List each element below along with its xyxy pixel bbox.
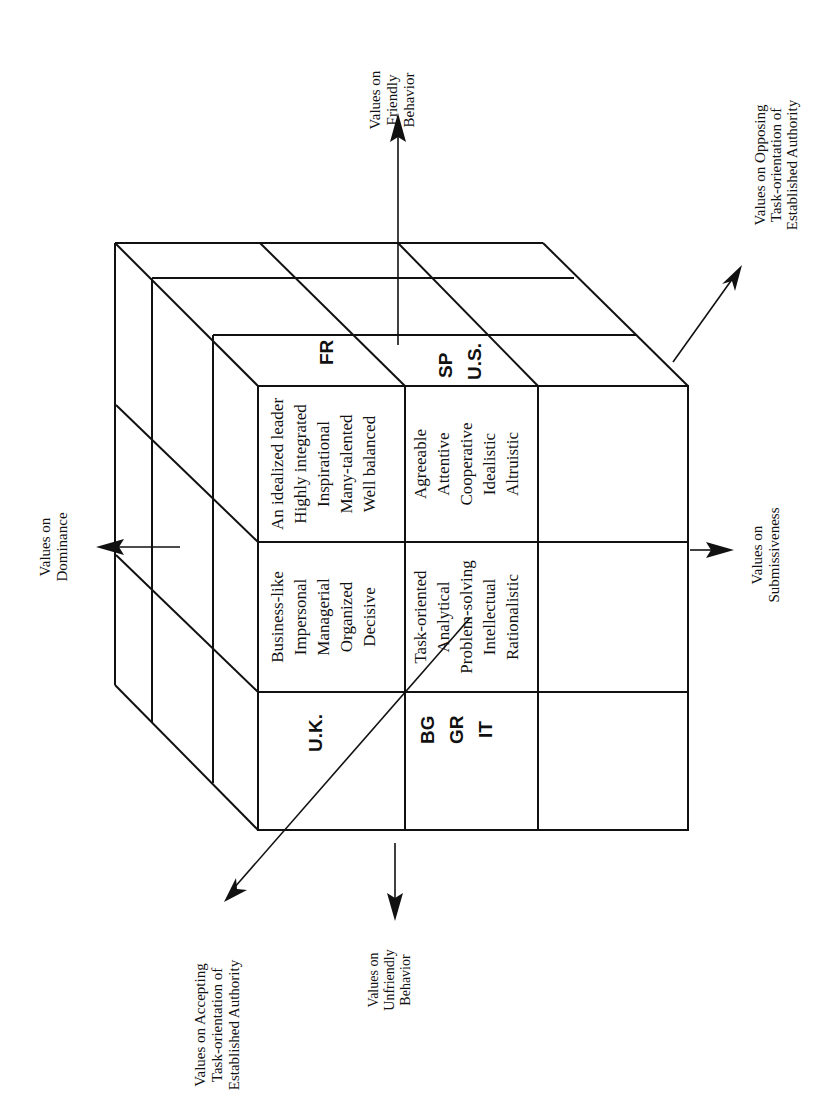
label-line: Established Authority <box>784 99 800 230</box>
label-line: Friendly <box>384 74 400 125</box>
label-line: Values on Accepting <box>192 963 208 1087</box>
country-code: SP <box>435 352 456 378</box>
cube-top-face <box>115 243 688 386</box>
arrow-up-right-icon <box>722 265 742 291</box>
label-submissiveness: Values on Submissiveness <box>749 507 782 602</box>
arrow-down-left-icon <box>224 878 247 902</box>
cell-trait: Managerial <box>314 578 333 656</box>
cube-diagram: Values on Friendly Behavior Values on Op… <box>0 0 824 1120</box>
cell-dominant-friendly: An idealized leader Highly integrated In… <box>268 398 379 530</box>
cell-trait: Intellectual <box>480 578 499 655</box>
axis-accepting <box>224 618 470 902</box>
cell-dominant-neutral: Business-like Impersonal Managerial Orga… <box>268 571 379 663</box>
label-line: Dominance <box>54 512 70 581</box>
label-unfriendly: Values on Unfriendly Behavior <box>366 949 413 1010</box>
country-code: IT <box>475 721 496 738</box>
label-opposing: Values on Opposing Task-orientation of E… <box>752 99 800 230</box>
cell-trait: Analytical <box>434 581 453 652</box>
label-line: Submissiveness <box>766 507 782 602</box>
label-line: Values on <box>749 525 765 584</box>
cell-trait: Well balanced <box>360 415 379 512</box>
country-gr: GR <box>446 715 467 744</box>
cell-trait: Many-talented <box>337 414 356 514</box>
cell-trait: Organized <box>337 581 356 652</box>
axis-submissiveness <box>690 542 734 558</box>
label-line: Unfriendly <box>382 949 397 1010</box>
side-diagonal-mid <box>116 405 258 542</box>
country-it: IT <box>475 721 496 738</box>
cube-side-face <box>115 243 258 830</box>
cell-trait: Inspirational <box>314 421 333 507</box>
country-bg: BG <box>417 716 438 745</box>
country-us: U.S. <box>464 343 485 380</box>
opposing-axis-line <box>673 278 733 362</box>
cell-trait: Task-oriented <box>411 570 430 664</box>
top-diagonal-left <box>115 243 258 386</box>
label-line: Values on <box>367 70 383 129</box>
country-code: GR <box>446 715 467 744</box>
cell-trait: Decisive <box>360 587 379 646</box>
cell-trait: Altruistic <box>503 431 522 496</box>
label-line: Task-orientation of <box>768 108 784 222</box>
label-friendly: Values on Friendly Behavior <box>367 70 417 129</box>
country-code: U.S. <box>464 343 485 380</box>
label-line: Values on <box>366 953 381 1008</box>
cell-submissive-neutral: Task-oriented Analytical Problem-solving… <box>411 560 522 674</box>
label-line: Established Authority <box>226 959 242 1090</box>
cell-trait: Business-like <box>268 571 287 663</box>
cell-trait: Cooperative <box>457 422 476 505</box>
country-fr: FR <box>316 339 337 365</box>
cell-trait: Agreeable <box>411 429 430 499</box>
cell-trait: Idealistic <box>480 432 499 495</box>
cell-trait: Attentive <box>434 432 453 495</box>
label-line: Behavior <box>401 73 417 128</box>
cell-trait: Rationalistic <box>503 574 522 660</box>
cell-submissive-friendly: Agreeable Attentive Cooperative Idealist… <box>411 422 522 505</box>
side-diagonal-bottom <box>115 685 258 830</box>
label-line: Values on Opposing <box>752 104 768 225</box>
label-accepting: Values on Accepting Task-orientation of … <box>192 959 242 1090</box>
country-uk: U.K. <box>305 714 326 752</box>
label-dominance: Values on Dominance <box>37 512 70 581</box>
top-diagonal-right <box>543 243 688 386</box>
country-sp: SP <box>435 352 456 378</box>
label-line: Values on <box>37 517 53 576</box>
axis-friendly <box>390 113 406 345</box>
axis-dominance <box>96 539 180 555</box>
country-code: U.K. <box>305 714 326 752</box>
side-diagonal-low <box>116 555 258 692</box>
cell-trait: Highly integrated <box>291 404 310 524</box>
axis-unfriendly <box>387 843 403 921</box>
label-line: Behavior <box>398 954 413 1006</box>
cell-trait: Problem-solving <box>457 560 476 674</box>
cell-trait: Impersonal <box>291 578 310 655</box>
label-line: Task-orientation of <box>209 968 225 1082</box>
country-code: BG <box>417 716 438 745</box>
country-code: FR <box>316 339 337 365</box>
cell-trait: An idealized leader <box>268 398 287 530</box>
axis-opposing <box>673 265 742 362</box>
